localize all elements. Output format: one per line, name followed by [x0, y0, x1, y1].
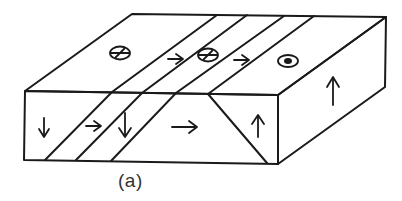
- front-face: [24, 91, 278, 164]
- fault-line-1: [45, 15, 217, 160]
- down-arrow-icon: [39, 118, 49, 137]
- right-arrow-icon: [168, 54, 183, 64]
- right-arrow-icon: [86, 121, 101, 131]
- fault-line-3: [111, 16, 284, 161]
- tail-cross-icon: [110, 47, 130, 60]
- dot-in-circle-icon: [278, 55, 298, 67]
- up-arrow-icon: [327, 77, 339, 105]
- down-arrow-icon: [119, 113, 131, 137]
- fault-line-4: [208, 16, 314, 94]
- right-side-face: [278, 17, 386, 164]
- up-arrow-icon: [252, 115, 264, 137]
- tail-cross-icon: [198, 49, 218, 62]
- right-arrow-icon: [234, 55, 249, 65]
- fault-block-diagram: [0, 0, 402, 201]
- right-arrow-icon: [172, 121, 197, 133]
- figure-caption: (a): [118, 170, 143, 192]
